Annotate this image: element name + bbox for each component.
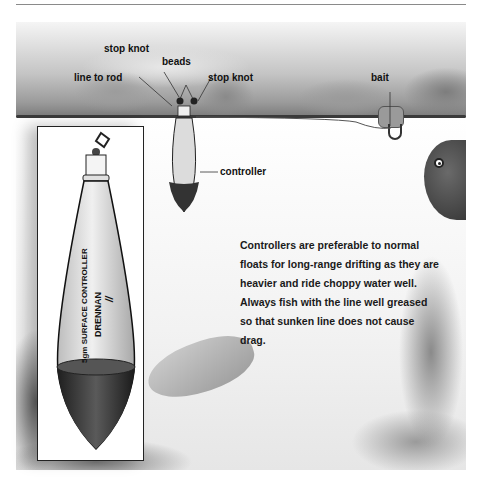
label-bait: bait [371,72,389,83]
top-rule [16,4,466,5]
label-line-to-rod: line to rod [74,72,122,83]
float-brand-logo-icon: // [104,296,115,302]
small-controller-float [169,106,199,212]
label-controller: controller [220,166,266,177]
label-beads: beads [162,56,191,67]
large-controller-float [38,127,143,460]
description-paragraph: Controllers are preferable to normal flo… [240,236,440,350]
float-print-brand: DRENNAN [93,292,103,337]
label-stop-knot-right: stop knot [208,72,253,83]
label-stop-knot-top: stop knot [104,43,149,54]
inset-controller-closeup: 5gm SURFACE CONTROLLER DRENNAN // [37,126,144,461]
float-print-model: 5gm SURFACE CONTROLLER [80,248,89,363]
